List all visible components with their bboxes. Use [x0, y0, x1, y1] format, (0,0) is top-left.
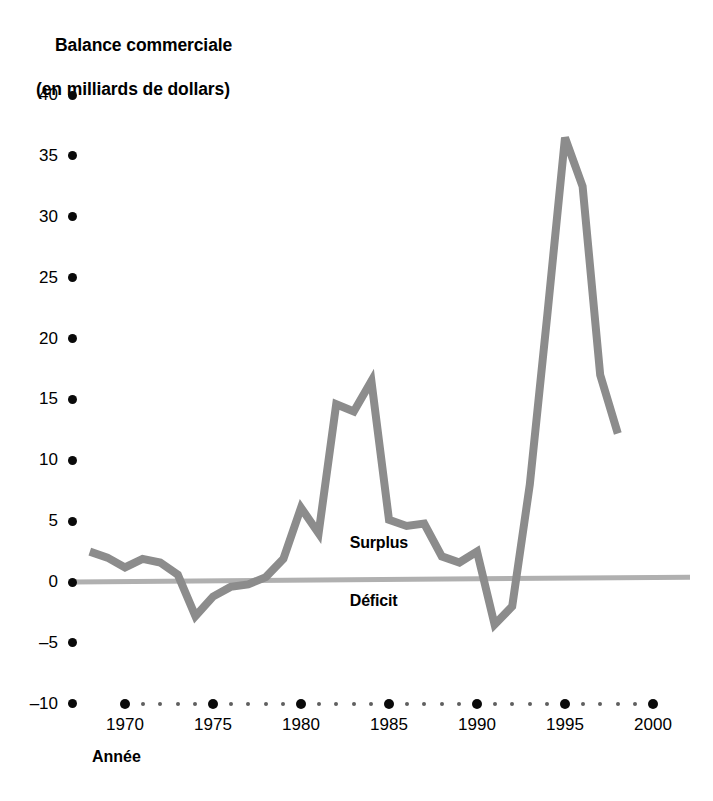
x-axis-tick-label: 1995 — [533, 716, 597, 733]
x-axis-tick-dot-minor — [352, 702, 356, 706]
x-axis-tick-label: 1985 — [357, 716, 421, 733]
x-axis-tick-dot-minor — [422, 702, 426, 706]
annotation-surplus: Surplus — [350, 534, 408, 552]
y-axis-tick-dot — [68, 456, 77, 465]
x-axis-tick-dot-minor — [246, 702, 250, 706]
x-axis-tick-dot-major — [648, 699, 658, 709]
x-axis-tick-label: 1975 — [181, 716, 245, 733]
x-axis-tick-label: 1980 — [269, 716, 333, 733]
x-axis-tick-dot-minor — [493, 702, 497, 706]
chart-root: Balance commerciale (en milliards de dol… — [0, 0, 713, 801]
y-axis-tick-label: 0 — [14, 573, 58, 590]
y-axis-tick-label: 40 — [14, 86, 58, 103]
y-axis-tick-dot — [68, 517, 77, 526]
y-axis-tick-dot — [68, 578, 77, 587]
x-axis-tick-dot-major — [208, 699, 218, 709]
y-axis-tick-dot — [68, 395, 77, 404]
x-axis-title: Année — [92, 748, 141, 766]
x-axis-tick-dot-minor — [158, 702, 162, 706]
y-axis-tick-dot — [68, 334, 77, 343]
x-axis-tick-label: 2000 — [621, 716, 685, 733]
x-axis-tick-dot-minor — [176, 702, 180, 706]
x-axis-tick-dot-minor — [229, 702, 233, 706]
x-axis-tick-dot-minor — [510, 702, 514, 706]
x-axis-tick-dot-minor — [317, 702, 321, 706]
x-axis-tick-dot-minor — [581, 702, 585, 706]
x-axis-tick-dot-major — [384, 699, 394, 709]
y-axis-tick-label: 20 — [14, 330, 58, 347]
x-axis-tick-dot-minor — [528, 702, 532, 706]
x-axis-tick-dot-minor — [440, 702, 444, 706]
x-axis-tick-dot-minor — [141, 702, 145, 706]
x-axis-tick-dot-major — [120, 699, 130, 709]
x-axis-tick-dot-minor — [334, 702, 338, 706]
x-axis-tick-dot-minor — [264, 702, 268, 706]
y-axis-tick-dot — [68, 91, 77, 100]
y-axis-tick-label: 25 — [14, 269, 58, 286]
annotation-dficit: Déficit — [350, 592, 398, 610]
y-axis-tick-label: –10 — [14, 695, 58, 712]
y-axis-tick-label: 35 — [14, 147, 58, 164]
x-axis-tick-label: 1970 — [93, 716, 157, 733]
x-axis-tick-dot-major — [560, 699, 570, 709]
x-axis-tick-label: 1990 — [445, 716, 509, 733]
x-axis-tick-dot-minor — [598, 702, 602, 706]
y-axis-tick-label: 30 — [14, 208, 58, 225]
x-axis-tick-dot-major — [296, 699, 306, 709]
zero-axis-line — [74, 577, 690, 582]
y-axis-tick-label: 5 — [14, 512, 58, 529]
y-axis-tick-label: –5 — [14, 634, 58, 651]
y-axis-tick-label: 15 — [14, 390, 58, 407]
plot-area — [0, 0, 713, 801]
x-axis-tick-dot-minor — [405, 702, 409, 706]
x-axis-tick-dot-major — [472, 699, 482, 709]
x-axis-tick-dot-minor — [616, 702, 620, 706]
y-axis-tick-label: 10 — [14, 451, 58, 468]
